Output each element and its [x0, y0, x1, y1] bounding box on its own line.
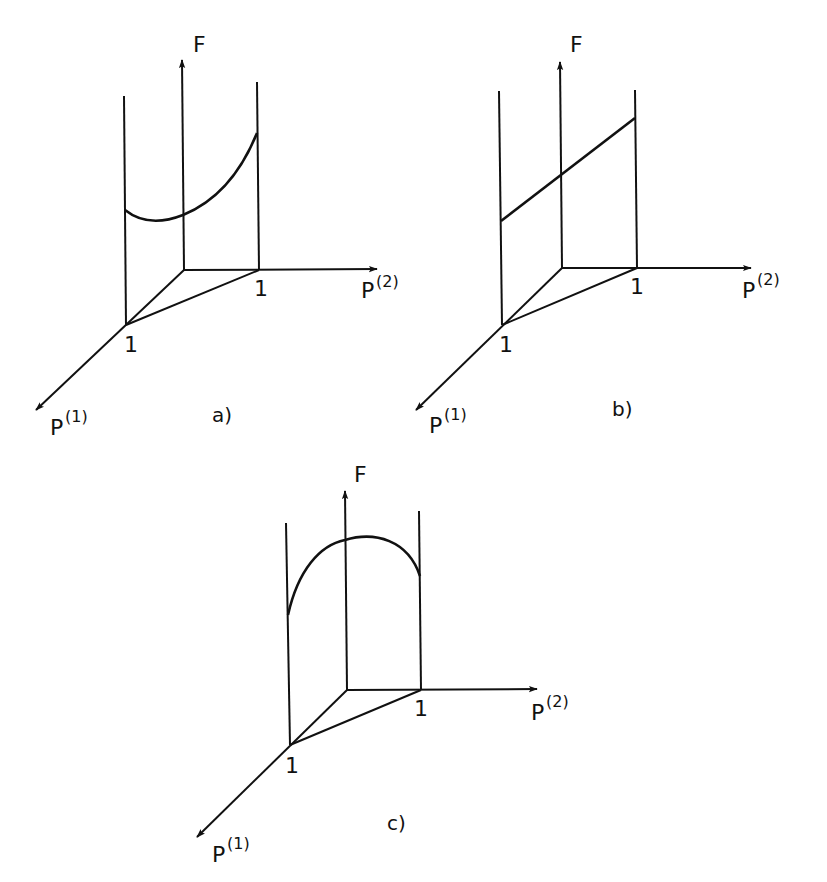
- p1-axis-label: P: [429, 413, 442, 438]
- p1-tick-label: 1: [499, 332, 513, 357]
- panel-caption: b): [612, 397, 633, 421]
- f-axis-arrow: [560, 62, 562, 268]
- p1-tick-label: 1: [285, 753, 299, 778]
- f-axis-label: F: [354, 462, 367, 487]
- p2-axis-arrow: [347, 689, 537, 690]
- p2-axis-superscript: (2): [757, 270, 780, 289]
- p1-axis-arrow: [36, 270, 184, 410]
- p2-tick-label: 1: [630, 274, 644, 299]
- fitness-line-linear: [501, 118, 635, 221]
- f-axis-label: F: [193, 32, 206, 57]
- p1-axis-arrow: [416, 268, 562, 410]
- p1-axis-label: P: [212, 842, 225, 867]
- p2-tick-label: 1: [254, 276, 268, 301]
- vertical-at-p1: [286, 523, 290, 745]
- p2-axis-superscript: (2): [376, 272, 399, 291]
- p1-tick-label: 1: [124, 332, 138, 357]
- simplex-edge: [126, 270, 259, 325]
- vertical-at-p1: [499, 91, 502, 325]
- panel-c: F P (2) P (1) 1 1 c): [197, 462, 569, 867]
- panel-b: F P (2) P (1) 1 1 b): [416, 32, 780, 438]
- simplex-edge: [502, 268, 637, 325]
- p2-axis-arrow: [184, 269, 377, 270]
- fitness-curve-convex: [125, 133, 257, 221]
- simplex-edge: [290, 690, 421, 745]
- panel-caption: a): [212, 403, 232, 427]
- p1-axis-label: P: [50, 415, 63, 440]
- p2-axis-label: P: [361, 278, 374, 303]
- vertical-at-p2: [419, 511, 421, 690]
- f-axis-arrow: [345, 491, 347, 690]
- panel-caption: c): [387, 811, 406, 835]
- vertical-at-p2: [635, 90, 637, 268]
- f-axis-arrow: [182, 60, 184, 270]
- panel-a: F P (2) P (1) 1 1 a): [36, 32, 399, 440]
- f-axis-label: F: [570, 32, 583, 57]
- p1-axis-superscript: (1): [444, 405, 467, 424]
- fitness-curve-concave: [288, 537, 420, 615]
- p1-axis-superscript: (1): [65, 407, 88, 426]
- figure-canvas: F P (2) P (1) 1 1 a) F P (2) P (1) 1 1 b…: [0, 0, 827, 882]
- p2-tick-label: 1: [414, 696, 428, 721]
- p1-axis-superscript: (1): [227, 834, 250, 853]
- p2-axis-label: P: [742, 278, 755, 303]
- p2-axis-superscript: (2): [546, 692, 569, 711]
- p2-axis-label: P: [531, 700, 544, 725]
- p1-axis-arrow: [197, 690, 347, 837]
- vertical-at-p2: [257, 82, 259, 270]
